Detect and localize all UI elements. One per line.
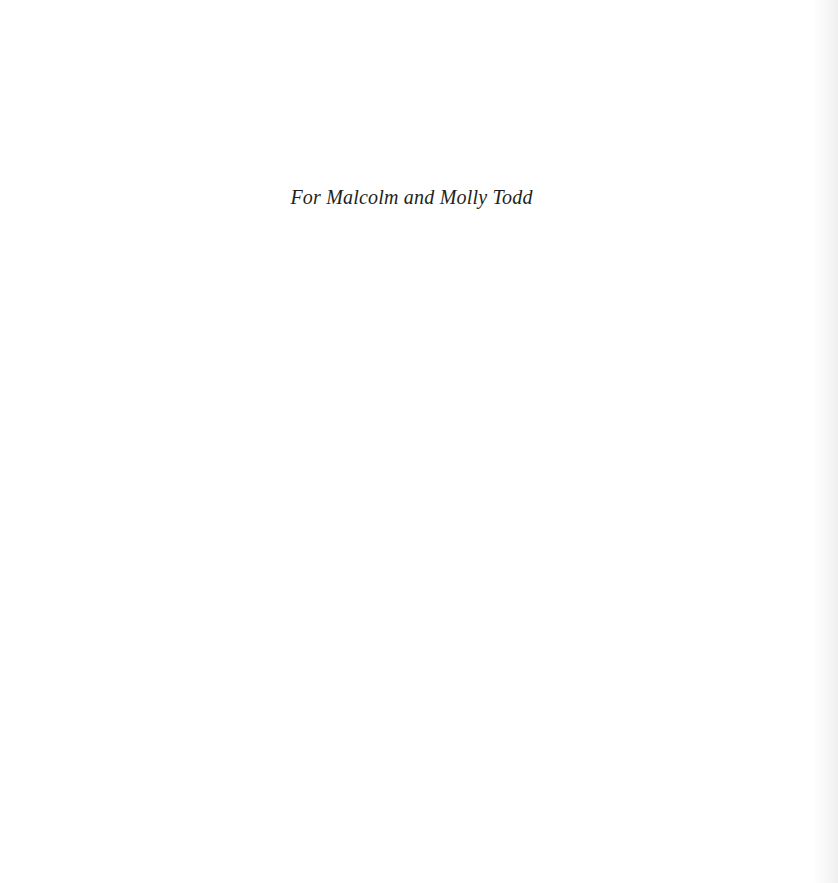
dedication-text: For Malcolm and Molly Todd bbox=[0, 183, 823, 211]
document-page: For Malcolm and Molly Todd bbox=[0, 0, 838, 883]
